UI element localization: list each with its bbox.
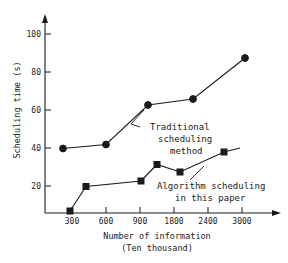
x-tick-label-2: 900 — [133, 217, 148, 226]
x-tick-label-5: 3000 — [232, 217, 251, 226]
data-point-marker — [154, 162, 160, 168]
y-tick-label-3: 80 — [31, 68, 41, 77]
data-point-marker — [103, 141, 110, 148]
x-axis-title-main: Number of information — [103, 231, 210, 241]
x-tick-label-3: 1800 — [164, 217, 183, 226]
data-point-marker — [145, 102, 152, 109]
y-axis-title-text: Scheduling time (s) — [12, 61, 22, 158]
x-tick-label-4: 2400 — [198, 217, 217, 226]
y-tick-label-0: 20 — [31, 182, 41, 191]
y-tick-label-2: 60 — [31, 106, 41, 115]
x-axis — [45, 210, 281, 216]
line-chart: 20 40 60 80 100 300 600 900 1800 2400 30… — [0, 0, 288, 263]
traditional-annotation: Traditional scheduling method — [150, 122, 212, 156]
y-axis-title: Scheduling time (s) — [12, 61, 22, 158]
y-axis — [42, 14, 48, 213]
algorithm-annotation: Algorithm scheduling in this paper — [157, 181, 265, 203]
y-tick-labels: 20 40 60 80 100 — [27, 30, 42, 191]
y-axis-arrowhead — [42, 14, 48, 23]
data-point-marker — [83, 184, 89, 190]
series-traditional-scheduling-method — [60, 55, 249, 152]
series-traditional-line — [63, 58, 245, 149]
data-point-marker — [67, 208, 73, 214]
traditional-annotation-line-0: Traditional — [150, 122, 210, 132]
x-tick-marks — [72, 207, 242, 213]
y-tick-marks — [45, 34, 51, 186]
algorithm-annotation-line-1: in this paper — [175, 193, 246, 203]
x-axis-title: Number of information (Ten thousand) — [103, 231, 210, 253]
traditional-annotation-line-2: method — [170, 146, 203, 156]
y-tick-label-1: 40 — [31, 144, 41, 153]
x-tick-label-1: 600 — [99, 217, 114, 226]
data-point-marker — [190, 96, 197, 103]
data-point-marker — [221, 149, 227, 155]
algorithm-annotation-leader — [190, 166, 204, 180]
x-axis-title-sub: (Ten thousand) — [121, 243, 193, 253]
x-tick-labels: 300 600 900 1800 2400 3000 — [65, 217, 252, 226]
chart-figure: 20 40 60 80 100 300 600 900 1800 2400 30… — [0, 0, 288, 263]
x-axis-arrowhead — [272, 210, 281, 216]
x-tick-label-0: 300 — [65, 217, 80, 226]
data-point-marker — [242, 55, 249, 62]
data-point-marker — [177, 169, 183, 175]
y-tick-label-4: 100 — [27, 30, 42, 39]
traditional-annotation-line-1: scheduling — [158, 134, 212, 144]
algorithm-annotation-line-0: Algorithm scheduling — [157, 181, 265, 191]
data-point-marker — [60, 145, 67, 152]
data-point-marker — [138, 178, 144, 184]
